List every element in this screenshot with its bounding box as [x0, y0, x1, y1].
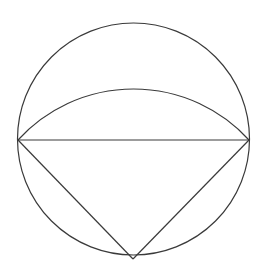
- diagram-svg: [0, 0, 261, 278]
- geometry-diagram: [0, 0, 261, 278]
- left-triangle-side: [18, 140, 133, 259]
- outer-circle: [18, 23, 250, 255]
- inner-arc: [18, 89, 249, 140]
- right-triangle-side: [133, 140, 249, 259]
